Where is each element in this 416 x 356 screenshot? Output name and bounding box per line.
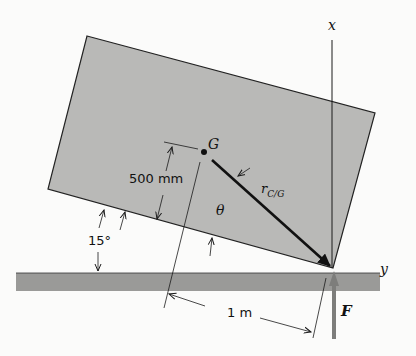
diagram-graphics	[0, 0, 416, 356]
x-axis-label: x	[328, 18, 336, 32]
y-axis-label: y	[380, 262, 388, 276]
theta-label: θ	[216, 203, 224, 217]
force-label: F	[341, 304, 352, 319]
height-dimension-label: 500 mm	[129, 172, 183, 185]
diagram: x y G rC/G θ 500 mm 15° 1 m F	[0, 0, 416, 356]
horizontal-dimension-label: 1 m	[227, 306, 252, 319]
center-of-mass-label: G	[208, 137, 219, 151]
center-of-mass-dot	[201, 149, 207, 155]
position-vector-subscript: C/G	[267, 189, 284, 199]
tilt-angle-label: 15°	[88, 234, 111, 247]
position-vector-label: rC/G	[261, 182, 284, 199]
